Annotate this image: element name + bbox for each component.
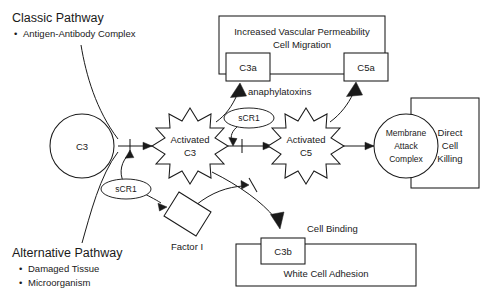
direct-cell-killing-line3: Killing — [437, 153, 462, 164]
arrowhead-activated-c5-to-c5a — [347, 82, 363, 97]
inhibition-tick-c3b-formation — [249, 178, 257, 192]
c3b-label: C3b — [274, 246, 291, 257]
arrowhead-scr1-left-downstream — [158, 203, 167, 211]
cell-binding-label: Cell Binding — [307, 223, 358, 234]
alternative-pathway-bullet-0-text: Damaged Tissue — [28, 263, 99, 274]
alternative-pathway-bullet-1-text: Microorganism — [28, 277, 90, 288]
vascular-effects-line1: Increased Vascular Permeability — [234, 26, 370, 37]
arrowhead-factor-i-inhibition — [241, 181, 249, 190]
alternative-pathway-bullet-1: • — [19, 277, 22, 288]
direct-cell-killing-line1: Direct — [438, 127, 463, 138]
connector-activated-c5-to-c5a — [330, 94, 353, 122]
activated-c3-label-line2: C3 — [184, 147, 196, 158]
classic-pathway-bullet-0-text: Antigen-Antibody Complex — [23, 28, 136, 39]
alternative-pathway-title: Alternative Pathway — [12, 246, 123, 260]
arrowhead-c3-to-activated-c3 — [143, 142, 152, 150]
activated-c5-label-line2: C5 — [300, 147, 312, 158]
mac-label-line1: Membrane — [386, 128, 427, 138]
arrowhead-activated-c3-to-c3b — [271, 212, 285, 229]
mac-label-line3: Complex — [389, 154, 423, 164]
c5a-label: C5a — [357, 62, 375, 73]
diagram-canvas: Classic Pathway • Antigen-Antibody Compl… — [0, 0, 500, 303]
vascular-effects-line2: Cell Migration — [273, 39, 331, 50]
direct-cell-killing-line2: Cell — [442, 140, 458, 151]
arrowhead-scr1-left-inhibition — [125, 150, 134, 158]
arrowhead-scr1-right-inhibition — [229, 138, 237, 146]
activated-c3-label-line1: Activated — [170, 134, 209, 145]
anaphylatoxins-label: anaphylatoxins — [248, 86, 312, 97]
classic-pathway-bullet-0: • — [14, 28, 17, 39]
classic-pathway-title: Classic Pathway — [12, 11, 104, 25]
alternative-pathway-bullet-0: • — [19, 263, 22, 274]
complement-cascade-diagram: Classic Pathway • Antigen-Antibody Compl… — [0, 0, 500, 303]
activated-c5-label-line1: Activated — [286, 134, 325, 145]
c3a-label: C3a — [239, 62, 257, 73]
c3-label: C3 — [76, 141, 88, 152]
scr1-left-label: sCR1 — [115, 184, 137, 194]
mac-label-line2: Attack — [394, 141, 418, 151]
arrowhead-activated-c5-to-mac — [365, 142, 374, 150]
connector-activated-c3-to-c3b — [212, 172, 275, 218]
arrowhead-activated-c3-to-c3a — [231, 83, 247, 98]
activated-c3-starburst — [152, 108, 228, 184]
white-cell-adhesion-label: White Cell Adhesion — [283, 268, 368, 279]
connector-factor-i-to-inhibition — [196, 186, 243, 205]
scr1-right-label: sCR1 — [238, 113, 260, 123]
factor-i-label: Factor I — [171, 241, 203, 252]
